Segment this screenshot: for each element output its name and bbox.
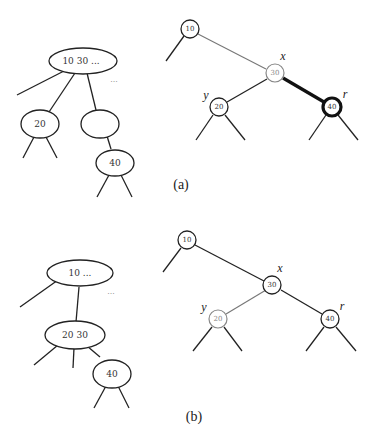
rbtree-a-var-x: x	[279, 49, 286, 63]
rbtree-a-edge-20-left	[196, 115, 213, 140]
rbtree-a-edge-40-right	[338, 115, 358, 140]
rbtree-a: 10 30 x 20 y 40 r	[166, 20, 358, 140]
rbtree-a-node-10-label: 10	[186, 25, 195, 33]
btree-a-edge-20-right	[46, 137, 57, 158]
btree-a-node-40-label: 40	[109, 158, 121, 168]
rbtree-b-node-10-label: 10	[183, 236, 192, 244]
btree-a-node-empty	[81, 110, 119, 138]
tree-diagram-figure: 10 30 ... ... 20 40 10 30 x 20	[0, 0, 375, 441]
rbtree-a-node-40-label: 40	[328, 103, 337, 111]
btree-a-edge-20	[49, 73, 75, 112]
rbtree-b-var-y: y	[200, 300, 207, 314]
btree-b-edge-40-left	[94, 386, 106, 408]
rbtree-b-var-r: r	[340, 299, 345, 313]
btree-a-root-keys: 10 30 ...	[62, 56, 99, 66]
btree-b-node-40-label: 40	[106, 369, 118, 379]
btree-b-root-keys: 10 ...	[69, 268, 92, 278]
rbtree-a-edge-20-right	[225, 115, 245, 140]
btree-b-node-20-30-keys: 20 30	[62, 330, 88, 340]
btree-a-edge-40-right	[121, 175, 132, 197]
rbtree-a-edge-10-left	[166, 36, 184, 61]
rbtree-a-edge-10-30	[198, 34, 266, 69]
btree-b-root-extra-dots: ...	[107, 287, 115, 296]
btree-a-edge-20-left	[23, 137, 34, 158]
figure-a-caption: (a)	[173, 177, 189, 193]
rbtree-b-edge-20-right	[224, 327, 242, 351]
btree-a-edge-40-left	[97, 175, 109, 197]
btree-b-edge-2030-left	[34, 345, 58, 365]
rbtree-b-var-x: x	[276, 261, 283, 275]
btree-a-node-20-label: 20	[34, 119, 46, 129]
figure-a: 10 30 ... ... 20 40 10 30 x 20	[17, 20, 358, 197]
btree-a: 10 30 ... ... 20 40	[17, 48, 134, 197]
rbtree-b-edge-10-30	[195, 245, 264, 281]
rbtree-b-edge-40-right	[336, 327, 356, 351]
btree-b-edge-2030-mid	[73, 348, 74, 368]
rbtree-b-node-20-label: 20	[214, 315, 223, 323]
btree-b-edge-20-30	[76, 287, 79, 322]
btree-a-edge-empty	[87, 73, 96, 110]
rbtree-a-node-30-label: 30	[271, 69, 280, 77]
btree-b-edge-40-right	[118, 386, 129, 408]
rbtree-b: 10 30 x 20 y 40 r	[163, 231, 356, 351]
rbtree-a-var-r: r	[343, 87, 348, 101]
rbtree-b-edge-40-left	[306, 327, 324, 351]
rbtree-b-edge-20-left	[193, 327, 212, 351]
btree-a-root-extra-dots: ...	[110, 75, 118, 84]
btree-a-edge-left	[17, 71, 64, 95]
rbtree-b-node-40-label: 40	[326, 315, 335, 323]
rbtree-b-edge-10-left	[163, 248, 181, 272]
btree-b: 10 ... ... 20 30 40	[20, 260, 131, 408]
rbtree-a-edge-30-20	[227, 79, 267, 102]
btree-b-edge-left	[20, 280, 58, 307]
btree-a-edge-40	[107, 136, 111, 149]
rbtree-b-edge-30-20	[226, 290, 266, 314]
figure-b-caption: (b)	[186, 409, 203, 425]
rbtree-b-node-30-label: 30	[268, 281, 277, 289]
figure-b: 10 ... ... 20 30 40 10 30 x 20 y	[20, 231, 356, 425]
rbtree-a-node-20-label: 20	[215, 103, 224, 111]
rbtree-a-var-y: y	[202, 88, 209, 102]
rbtree-a-edge-30-40-thick	[283, 78, 324, 102]
rbtree-b-edge-30-40	[281, 290, 322, 314]
rbtree-a-edge-40-left	[309, 115, 326, 140]
